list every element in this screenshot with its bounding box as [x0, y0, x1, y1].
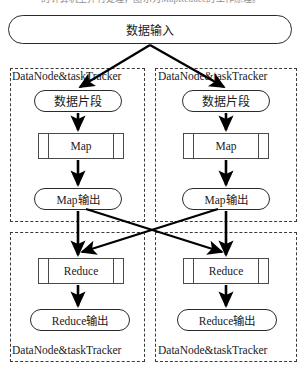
group-reduce-node-left-label: DataNode&taskTracker	[12, 344, 121, 357]
node-reduce-right-label: Reduce	[184, 259, 268, 283]
node-map-left[interactable]: Map	[38, 133, 124, 159]
group-reduce-node-right-label: DataNode&taskTracker	[158, 344, 267, 357]
node-mapout-right[interactable]: Map输出	[182, 188, 270, 210]
node-map-left-label: Map	[39, 134, 123, 158]
node-reduceout-right[interactable]: Reduce输出	[177, 309, 277, 331]
node-reduce-right[interactable]: Reduce	[183, 258, 269, 284]
node-reduce-left[interactable]: Reduce	[38, 258, 124, 284]
group-reduce-node-left	[10, 232, 145, 362]
node-data-input[interactable]: 数据输入	[8, 15, 292, 44]
group-map-node-left-label: DataNode&taskTracker	[12, 70, 121, 83]
mapreduce-diagram: 的计算机上并行处理，图示为MapReduce的工作原理。 数据输入 DataNo…	[0, 0, 303, 372]
node-map-right-label: Map	[184, 134, 268, 158]
node-mapout-left-label: Map输出	[56, 191, 99, 207]
node-mapout-right-label: Map输出	[204, 191, 247, 207]
node-split-right-label: 数据片段	[202, 92, 250, 110]
node-data-input-label: 数据输入	[126, 21, 174, 39]
node-split-left-label: 数据片段	[54, 92, 102, 110]
cut-off-header-text: 的计算机上并行处理，图示为MapReduce的工作原理。	[0, 0, 303, 11]
group-reduce-node-right	[155, 232, 297, 362]
node-reduceout-left[interactable]: Reduce输出	[30, 309, 130, 331]
node-reduceout-left-label: Reduce输出	[52, 312, 108, 328]
node-reduce-left-label: Reduce	[39, 259, 123, 283]
node-map-right[interactable]: Map	[183, 133, 269, 159]
node-split-left[interactable]: 数据片段	[34, 90, 122, 112]
node-reduceout-right-label: Reduce输出	[199, 312, 255, 328]
node-split-right[interactable]: 数据片段	[182, 90, 270, 112]
group-map-node-right-label: DataNode&taskTracker	[158, 70, 267, 83]
node-mapout-left[interactable]: Map输出	[34, 188, 122, 210]
cut-off-header-text-value: 的计算机上并行处理，图示为MapReduce的工作原理。	[41, 0, 261, 4]
